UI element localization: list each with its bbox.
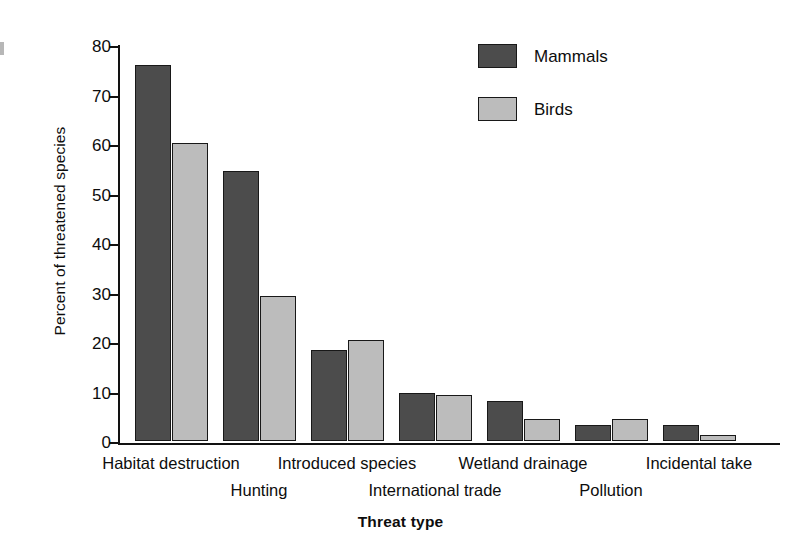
y-tick-label: 70 xyxy=(92,87,111,104)
bar-birds xyxy=(260,296,296,441)
legend-item: Birds xyxy=(478,97,573,121)
x-axis-title: Threat type xyxy=(0,513,801,531)
bar-mammals xyxy=(399,393,435,442)
bar-mammals xyxy=(663,425,699,441)
x-axis-label: Pollution xyxy=(579,482,642,499)
y-tick-label: 0 xyxy=(102,434,111,451)
legend-swatch xyxy=(478,44,517,68)
x-axis-label: Habitat destruction xyxy=(102,455,240,472)
bar-chart-figure: Percent of threatened species 0102030405… xyxy=(0,0,801,554)
y-tick-label: 40 xyxy=(92,236,111,253)
y-axis-line xyxy=(118,45,120,444)
y-tick-label: 20 xyxy=(92,335,111,352)
bar-mammals xyxy=(135,65,171,441)
x-axis-line xyxy=(118,443,780,445)
y-tick-label: 30 xyxy=(92,285,111,302)
bar-birds xyxy=(172,143,208,441)
scan-edge-artifact xyxy=(0,42,4,55)
bar-mammals xyxy=(311,350,347,441)
x-axis-label: Wetland drainage xyxy=(458,455,587,472)
bar-birds xyxy=(436,395,472,441)
bar-birds xyxy=(612,419,648,441)
bar-birds xyxy=(700,435,736,441)
legend-label: Birds xyxy=(534,101,573,118)
legend-label: Mammals xyxy=(534,48,608,65)
bar-mammals xyxy=(487,401,523,441)
legend-item: Mammals xyxy=(478,44,608,68)
bar-birds xyxy=(524,419,560,441)
y-tick-label: 50 xyxy=(92,186,111,203)
y-tick-label: 60 xyxy=(92,137,111,154)
bar-mammals xyxy=(575,425,611,441)
x-axis-label: Incidental take xyxy=(646,455,752,472)
plot-area: 01020304050607080 xyxy=(118,45,780,443)
x-axis-label: Hunting xyxy=(231,482,288,499)
bar-birds xyxy=(348,340,384,441)
x-axis-label: Introduced species xyxy=(278,455,417,472)
y-tick-label: 80 xyxy=(92,38,111,55)
y-tick-label: 10 xyxy=(92,384,111,401)
legend-swatch xyxy=(478,97,517,121)
x-axis-label: International trade xyxy=(368,482,501,499)
bar-mammals xyxy=(223,171,259,441)
y-axis-title: Percent of threatened species xyxy=(51,51,69,411)
